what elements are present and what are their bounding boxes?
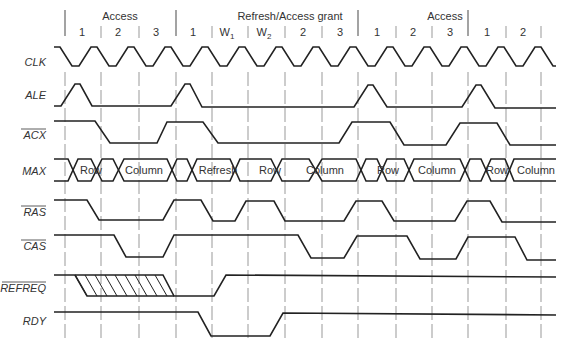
- signal-label-cas: CAS: [23, 240, 46, 252]
- timing-diagram: Access Refresh/Access grant Access 1 2 3…: [0, 0, 564, 347]
- cycle-label: 2: [300, 26, 306, 38]
- cycle-label: 1: [374, 26, 380, 38]
- max-value-refresh: Refresh: [199, 164, 238, 176]
- ale-waveform: [54, 84, 556, 108]
- cycle-label-w2: W2: [257, 26, 272, 41]
- acx-waveform: [54, 121, 556, 145]
- ras-waveform: [54, 200, 556, 222]
- cycle-label: 2: [410, 26, 416, 38]
- signal-label-refreq: REFREQ: [0, 282, 46, 294]
- max-value-row: Row: [80, 164, 102, 176]
- max-value-row: Row: [259, 164, 281, 176]
- refreq-waveform: [54, 275, 556, 296]
- group-label-access-2: Access: [427, 10, 463, 22]
- cycle-label: 1: [79, 26, 85, 38]
- max-value-column: Column: [517, 164, 555, 176]
- clk-waveform: [54, 47, 556, 66]
- cycle-label: 1: [190, 26, 196, 38]
- max-bus-waveform: Row Column Refresh Row Column Row Column…: [54, 159, 556, 181]
- signal-label-max: MAX: [22, 165, 47, 177]
- signal-labels: CLK ALE ACX MAX RAS CAS REFREQ RDY: [0, 56, 47, 327]
- signal-label-acx: ACX: [22, 129, 46, 141]
- cycle-dividers: [101, 26, 541, 38]
- cycle-label-w1: W1: [220, 26, 235, 41]
- signal-label-rdy: RDY: [23, 315, 47, 327]
- max-value-column: Column: [418, 164, 456, 176]
- group-label-refresh: Refresh/Access grant: [237, 10, 342, 22]
- max-value-row: Row: [486, 164, 508, 176]
- group-label-access-1: Access: [102, 10, 138, 22]
- vertical-gridlines: [65, 72, 541, 342]
- cas-waveform: [54, 235, 556, 260]
- signal-label-clk: CLK: [25, 56, 47, 68]
- cycle-label: 1: [484, 26, 490, 38]
- group-headers: Access Refresh/Access grant Access: [102, 10, 463, 22]
- cycle-labels: 1 2 3 1 W1 W2 2 3 1 2 3 1 2: [79, 26, 526, 41]
- signal-label-ale: ALE: [24, 89, 46, 101]
- cycle-label: 3: [337, 26, 343, 38]
- rdy-waveform: [54, 312, 556, 336]
- cycle-label: 2: [115, 26, 121, 38]
- max-value-column: Column: [125, 164, 163, 176]
- cycle-label: 2: [520, 26, 526, 38]
- cycle-label: 3: [447, 26, 453, 38]
- signal-label-ras: RAS: [23, 206, 46, 218]
- max-value-row: Row: [377, 164, 399, 176]
- cycle-label: 3: [153, 26, 159, 38]
- max-value-column: Column: [306, 164, 344, 176]
